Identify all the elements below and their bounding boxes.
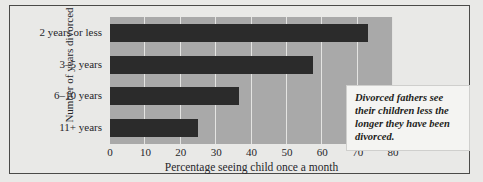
y-axis-tick-label: 3–5 years bbox=[60, 58, 102, 70]
y-axis-tick-label: 11+ years bbox=[59, 121, 102, 133]
bar bbox=[110, 24, 368, 42]
chart-frame: Number of years divorced 2 years or less… bbox=[9, 5, 470, 174]
y-axis-tick-label: 2 years or less bbox=[39, 26, 102, 38]
x-axis-tick-label: 0 bbox=[107, 146, 113, 158]
bar bbox=[110, 87, 239, 105]
x-axis-tick-label: 30 bbox=[211, 146, 222, 158]
y-axis-tick-labels: 2 years or less3–5 years6–10 years11+ ye… bbox=[26, 17, 106, 144]
x-axis-tick-label: 20 bbox=[175, 146, 186, 158]
y-axis-tick-label: 6–10 years bbox=[54, 89, 102, 101]
bar bbox=[110, 119, 198, 137]
bar bbox=[110, 56, 313, 74]
chart-figure: Number of years divorced 2 years or less… bbox=[0, 0, 483, 182]
x-axis-tick-label: 40 bbox=[246, 146, 257, 158]
x-axis-title: Percentage seeing child once a month bbox=[110, 161, 393, 173]
x-axis-tick-label: 10 bbox=[140, 146, 151, 158]
x-axis-tick-label: 60 bbox=[317, 146, 328, 158]
annotation-callout: Divorced fathers see their children less… bbox=[346, 85, 470, 151]
x-axis-tick-label: 50 bbox=[281, 146, 292, 158]
